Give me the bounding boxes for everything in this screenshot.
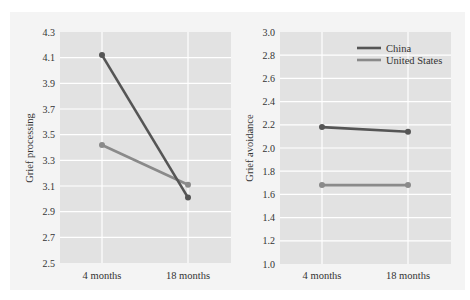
left-plot-area bbox=[60, 32, 231, 263]
right-y-axis-label: Grief avoidance bbox=[244, 114, 255, 182]
y-tick: 2.0 bbox=[263, 143, 276, 154]
left-chart: 4.3 4.1 3.9 3.7 3.5 3.3 3.1 2.9 2.7 2.5 … bbox=[24, 27, 231, 282]
data-point bbox=[185, 195, 191, 201]
y-tick: 4.3 bbox=[43, 27, 56, 38]
y-tick: 3.1 bbox=[43, 181, 56, 192]
y-tick: 2.8 bbox=[263, 50, 276, 61]
x-tick: 18 months bbox=[166, 270, 210, 281]
y-tick: 2.7 bbox=[43, 232, 56, 243]
left-y-ticks: 4.3 4.1 3.9 3.7 3.5 3.3 3.1 2.9 2.7 2.5 bbox=[43, 27, 56, 269]
x-tick: 4 months bbox=[83, 270, 122, 281]
y-tick: 1.0 bbox=[263, 259, 276, 270]
data-point bbox=[405, 182, 411, 188]
right-y-ticks: 3.0 2.8 2.6 2.4 2.2 2.0 1.8 1.6 1.4 1.2 … bbox=[263, 27, 276, 270]
y-tick: 2.4 bbox=[263, 96, 276, 107]
legend-label-china: China bbox=[386, 43, 411, 54]
figure-svg: 4.3 4.1 3.9 3.7 3.5 3.3 3.1 2.9 2.7 2.5 … bbox=[0, 0, 470, 300]
y-tick: 3.7 bbox=[43, 104, 56, 115]
y-tick: 2.6 bbox=[263, 73, 276, 84]
y-tick: 1.6 bbox=[263, 189, 276, 200]
y-tick: 2.5 bbox=[43, 258, 56, 269]
y-tick: 3.0 bbox=[263, 27, 276, 38]
data-point bbox=[319, 124, 325, 130]
x-tick: 4 months bbox=[303, 270, 342, 281]
data-point bbox=[99, 52, 105, 58]
y-tick: 3.5 bbox=[43, 129, 56, 140]
data-point bbox=[319, 182, 325, 188]
y-tick: 1.4 bbox=[263, 212, 276, 223]
y-tick: 1.2 bbox=[263, 235, 276, 246]
data-point bbox=[185, 182, 191, 188]
data-point bbox=[99, 142, 105, 148]
y-tick: 3.9 bbox=[43, 78, 56, 89]
y-tick: 2.2 bbox=[263, 119, 276, 130]
right-chart: 3.0 2.8 2.6 2.4 2.2 2.0 1.8 1.6 1.4 1.2 … bbox=[244, 27, 451, 282]
y-tick: 1.8 bbox=[263, 166, 276, 177]
y-tick: 2.9 bbox=[43, 206, 56, 217]
left-y-axis-label: Grief processing bbox=[24, 112, 35, 182]
x-tick: 18 months bbox=[386, 270, 430, 281]
legend-label-us: United States bbox=[386, 55, 442, 66]
data-point bbox=[405, 129, 411, 135]
y-tick: 4.1 bbox=[43, 52, 56, 63]
left-x-ticks: 4 months 18 months bbox=[83, 270, 210, 281]
right-x-ticks: 4 months 18 months bbox=[303, 270, 430, 281]
y-tick: 3.3 bbox=[43, 155, 56, 166]
